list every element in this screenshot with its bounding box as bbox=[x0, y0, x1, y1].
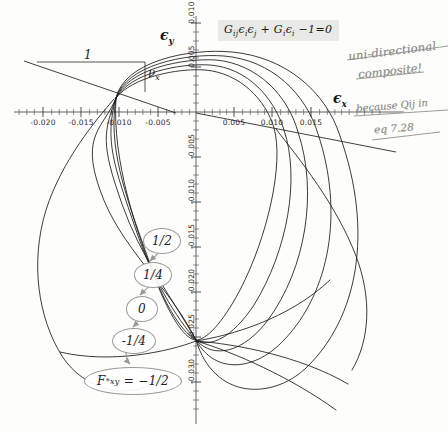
y-tick-label-0: 0.010 bbox=[187, 0, 196, 28]
callout-f-equals: = −1/2 bbox=[124, 374, 169, 388]
failure-envelope-curves bbox=[38, 51, 367, 410]
envelope-node-branch-d bbox=[196, 341, 348, 384]
y-tick-label-4: -0.015 bbox=[187, 220, 196, 254]
y-tick-label-2: -0.005 bbox=[187, 130, 196, 164]
x-axis-symbol: ϵ bbox=[333, 90, 342, 106]
x-tick-label-2: -0.010 bbox=[106, 118, 131, 127]
callout-neg-one-quarter: -1/4 bbox=[112, 328, 156, 354]
y-axis-label: ϵy bbox=[160, 27, 174, 46]
callout-one-quarter: 1/4 bbox=[134, 262, 172, 288]
y-tick-label-1: 0.005 bbox=[187, 42, 196, 72]
x-tick-label-5: 0.010 bbox=[261, 118, 283, 127]
y-tick-label-7: -0.030 bbox=[187, 355, 196, 389]
equation-tail: −1=0 bbox=[299, 23, 333, 36]
x-axis-label: ϵx bbox=[333, 90, 347, 109]
callout-f-sub: xy bbox=[110, 377, 120, 386]
y-tick-label-3: -0.010 bbox=[187, 175, 196, 209]
equation-eps-j: ϵj bbox=[248, 23, 257, 36]
callout-one-half: 1/2 bbox=[143, 228, 181, 254]
callout-zero: 0 bbox=[126, 296, 158, 322]
equation-plus: + bbox=[261, 23, 271, 36]
x-tick-label-4: 0.005 bbox=[223, 118, 245, 127]
slope-run-subscript: x bbox=[155, 73, 160, 82]
y-axis-subscript: y bbox=[169, 36, 174, 46]
y-tick-label-6: -0.025 bbox=[187, 310, 196, 344]
equation-eps-i2: ϵi bbox=[286, 23, 295, 36]
y-tick-label-5: -0.020 bbox=[187, 265, 196, 299]
x-tick-label-1: -0.015 bbox=[68, 118, 93, 127]
equation-eps-i: ϵi bbox=[238, 23, 247, 36]
equation-gi: Gi bbox=[274, 23, 286, 36]
equation-label: Gijϵiϵj + Giϵi −1=0 bbox=[218, 20, 339, 41]
y-axis-symbol: ϵ bbox=[160, 27, 169, 43]
x-tick-label-0: -0.020 bbox=[30, 118, 55, 127]
x-tick-label-6: 0.015 bbox=[300, 118, 322, 127]
x-axis-subscript: x bbox=[342, 99, 347, 109]
figure-page: Gijϵiϵj + Giϵi −1=0 ϵy ϵx -0.020 -0.015 … bbox=[0, 0, 448, 432]
x-tick-label-3: -0.005 bbox=[145, 118, 170, 127]
equation-gij: Gij bbox=[224, 23, 238, 36]
callout-f-symbol: F bbox=[97, 374, 106, 388]
callout-fxy-neg-one-half: F*xy = −1/2 bbox=[84, 367, 182, 395]
slope-rise-label: 1 bbox=[84, 48, 92, 62]
slope-run-label: νx bbox=[148, 66, 160, 82]
